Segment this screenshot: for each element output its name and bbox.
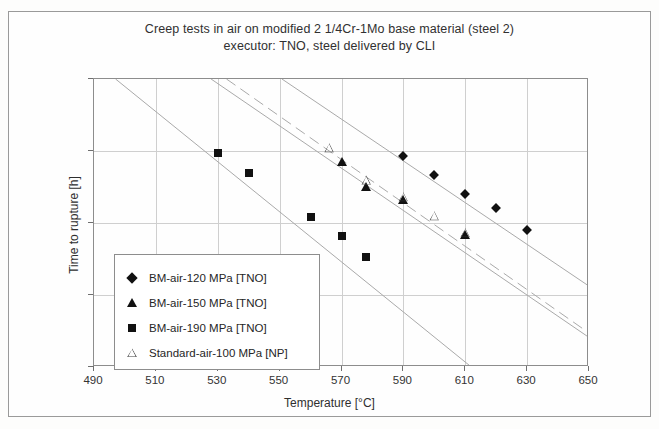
y-axis-tick-label: 101: [0, 359, 85, 373]
gridline-vertical: [527, 79, 528, 365]
x-axis-tick: [93, 366, 94, 371]
y-axis-tick-label: 105: [0, 71, 85, 85]
gridline-vertical: [342, 79, 343, 365]
marker-glyph: [127, 348, 137, 357]
x-axis-tick-label: 650: [578, 374, 597, 386]
chart-page: Creep tests in air on modified 2 1/4Cr-1…: [0, 0, 659, 429]
marker-glyph: [128, 324, 136, 332]
gridline-vertical: [465, 79, 466, 365]
legend-label: Standard-air-100 MPa [NP]: [149, 347, 288, 359]
x-axis-tick-label: 510: [145, 374, 164, 386]
gridline-horizontal: [94, 223, 587, 224]
chart-title: Creep tests in air on modified 2 1/4Cr-1…: [0, 22, 659, 36]
data-point: [429, 211, 439, 221]
legend-item: Standard-air-100 MPa [NP]: [115, 338, 319, 367]
x-axis-tick-label: 570: [331, 374, 350, 386]
chart-legend: BM-air-120 MPa [TNO]BM-air-150 MPa [TNO]…: [114, 254, 320, 370]
data-point: [338, 232, 346, 240]
y-axis-tick-label: 102: [0, 287, 85, 301]
x-axis-tick: [526, 366, 527, 371]
data-point: [362, 253, 370, 261]
gridline-horizontal: [94, 151, 587, 152]
legend-marker-triangle-filled: [115, 298, 149, 307]
data-point: [214, 149, 222, 157]
chart-subtitle: executor: TNO, steel delivered by CLI: [0, 39, 659, 53]
legend-marker-square-filled: [115, 324, 149, 332]
x-axis-tick-label: 610: [455, 374, 474, 386]
gridline-vertical: [403, 79, 404, 365]
marker-glyph: [127, 298, 137, 307]
data-point: [429, 170, 439, 180]
y-axis-tick-label: 104: [0, 143, 85, 157]
x-axis-tick: [588, 366, 589, 371]
x-axis-tick: [402, 366, 403, 371]
data-point: [491, 203, 501, 213]
x-axis-tick-label: 530: [207, 374, 226, 386]
x-axis-tick-label: 490: [83, 374, 102, 386]
x-axis-tick-label: 630: [517, 374, 536, 386]
legend-marker-diamond-filled: [115, 274, 149, 282]
data-point: [460, 189, 470, 199]
legend-label: BM-air-150 MPa [TNO]: [149, 297, 267, 309]
x-axis-tick: [341, 366, 342, 371]
data-point: [398, 151, 408, 161]
marker-glyph: [126, 272, 137, 283]
legend-marker-triangle-open: [115, 348, 149, 357]
legend-label: BM-air-120 MPa [TNO]: [149, 272, 267, 284]
x-axis-title: Temperature [°C]: [0, 396, 659, 410]
y-axis-tick-label: 103: [0, 215, 85, 229]
data-point: [522, 225, 532, 235]
data-point: [337, 157, 347, 166]
x-axis-tick-label: 550: [269, 374, 288, 386]
trend-line: [282, 79, 587, 285]
legend-label: BM-air-190 MPa [TNO]: [149, 322, 267, 334]
data-point: [245, 169, 253, 177]
data-point: [307, 213, 315, 221]
x-axis-tick: [464, 366, 465, 371]
x-axis-tick-label: 590: [393, 374, 412, 386]
